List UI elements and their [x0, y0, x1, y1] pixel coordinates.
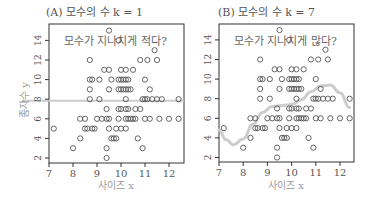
panel-a-title: (A) 모수의 수 k = 1: [46, 6, 143, 19]
data-point: [316, 57, 321, 62]
data-point: [274, 155, 279, 160]
data-point: [258, 86, 263, 91]
data-point: [277, 28, 282, 33]
y-tick-label: 6: [33, 116, 43, 122]
x-tick-label: 7: [216, 167, 222, 178]
data-point: [325, 57, 330, 62]
data-point: [142, 77, 147, 82]
panel-b-fit-curve: [219, 85, 350, 145]
panel-b-y-axis: 2468101214: [203, 34, 219, 160]
panel-b-x-label: 사이즈 x: [268, 180, 304, 191]
x-tick-label: 9: [264, 167, 270, 178]
data-point: [306, 135, 311, 140]
panel-b-x-axis: 789101112: [216, 162, 347, 178]
x-tick-label: 8: [70, 168, 76, 179]
data-point: [267, 77, 272, 82]
x-tick-label: 12: [163, 168, 176, 179]
panel-a: (A) 모수의 수 k = 1 모수가 지나치게 적다? 789101112 2…: [19, 6, 184, 191]
data-point: [166, 116, 171, 121]
y-tick-label: 10: [33, 74, 43, 86]
data-point: [313, 77, 318, 82]
x-tick-label: 11: [309, 167, 322, 178]
data-point: [145, 57, 150, 62]
y-tick-label: 14: [203, 34, 213, 46]
data-point: [347, 96, 352, 101]
data-point: [311, 145, 316, 150]
data-point: [157, 116, 162, 121]
panel-b: (B) 모수의 수 k = 7 모수가 지나치게 많다? 789101112 2…: [203, 6, 354, 191]
y-tick-label: 10: [203, 73, 213, 85]
x-tick-label: 12: [334, 167, 347, 178]
y-tick-label: 2: [203, 155, 213, 161]
data-point: [277, 86, 282, 91]
y-tick-label: 4: [203, 135, 213, 141]
data-point: [258, 96, 263, 101]
data-point: [70, 146, 75, 151]
data-point: [152, 48, 157, 53]
data-point: [78, 136, 83, 141]
data-point: [106, 28, 111, 33]
data-point: [277, 126, 282, 131]
data-point: [176, 116, 181, 121]
data-point: [51, 126, 56, 131]
x-tick-label: 8: [240, 167, 246, 178]
x-tick-label: 7: [46, 168, 52, 179]
data-point: [104, 155, 109, 160]
panel-a-x-label: 사이즈 x: [98, 180, 134, 191]
y-tick-label: 12: [203, 54, 213, 65]
data-point: [116, 116, 121, 121]
data-point: [328, 116, 333, 121]
data-point: [87, 87, 92, 92]
x-tick-label: 10: [285, 167, 298, 178]
data-point: [109, 77, 114, 82]
data-point: [279, 77, 284, 82]
data-point: [138, 57, 143, 62]
y-tick-label: 14: [33, 34, 43, 46]
data-point: [274, 145, 279, 150]
data-point: [106, 87, 111, 92]
data-point: [248, 135, 253, 140]
data-point: [301, 67, 306, 72]
data-point: [241, 145, 246, 150]
x-tick-label: 10: [115, 168, 128, 179]
data-point: [130, 67, 135, 72]
panel-a-y-label: 종자수 y: [19, 82, 30, 118]
x-tick-label: 11: [139, 168, 152, 179]
panel-a-y-axis: 2468101214: [33, 34, 49, 160]
panel-b-title: (B) 모수의 수 k = 7: [218, 6, 315, 19]
data-point: [104, 146, 109, 151]
data-point: [140, 146, 145, 151]
data-point: [97, 77, 102, 82]
figure: (A) 모수의 수 k = 1 모수가 지나치게 적다? 789101112 2…: [0, 0, 375, 203]
y-tick-label: 4: [33, 135, 43, 141]
data-point: [258, 57, 263, 62]
data-point: [106, 126, 111, 131]
data-point: [287, 116, 292, 121]
panel-b-annotation: 모수가 지나치게 많다?: [234, 35, 337, 48]
data-point: [337, 116, 342, 121]
y-tick-label: 8: [33, 96, 43, 102]
y-tick-label: 12: [33, 54, 43, 65]
data-point: [104, 106, 109, 111]
panel-a-annotation: 모수가 지나치게 적다?: [64, 35, 167, 48]
panel-a-x-axis: 789101112: [46, 163, 176, 179]
data-point: [154, 57, 159, 62]
data-point: [135, 136, 140, 141]
data-point: [147, 87, 152, 92]
data-point: [308, 57, 313, 62]
y-tick-label: 2: [33, 155, 43, 161]
data-point: [87, 57, 92, 62]
y-tick-label: 6: [203, 115, 213, 121]
data-point: [347, 116, 352, 121]
data-point: [221, 126, 226, 131]
y-tick-label: 8: [203, 96, 213, 102]
data-point: [267, 96, 272, 101]
x-tick-label: 9: [94, 168, 100, 179]
